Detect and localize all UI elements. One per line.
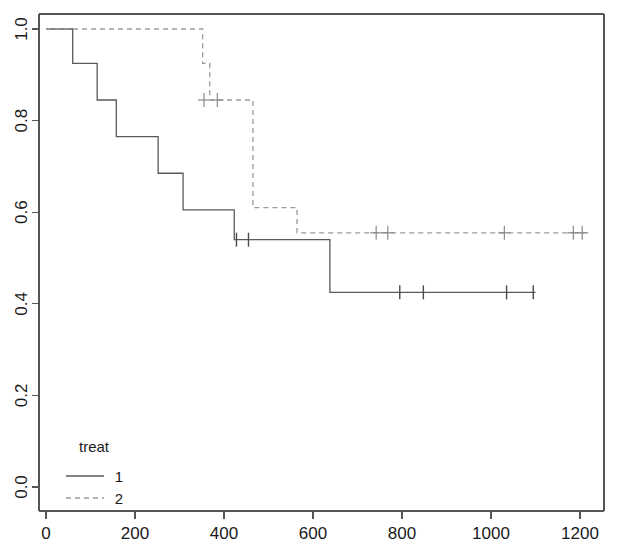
y-tick-label-0.8: 0.8	[12, 109, 31, 133]
survival-plot: 0.00.20.40.60.81.0 020040060080010001200…	[0, 0, 623, 553]
legend-label-2: 2	[115, 490, 123, 507]
legend-label-1: 1	[115, 468, 123, 485]
censor-marks-1	[236, 233, 533, 300]
survival-curve-1	[46, 29, 536, 292]
survival-curve-2	[46, 29, 587, 233]
x-tick-label-1000: 1000	[472, 524, 510, 543]
x-tick-label-600: 600	[299, 524, 327, 543]
x-tick-label-0: 0	[41, 524, 50, 543]
y-tick-label-0.4: 0.4	[12, 292, 31, 316]
x-tick-label-200: 200	[121, 524, 149, 543]
plot-frame	[39, 14, 604, 511]
censor-marks-2	[198, 93, 588, 240]
x-tick-label-800: 800	[388, 524, 416, 543]
series-layer	[46, 29, 588, 299]
x-axis: 020040060080010001200	[41, 511, 599, 543]
y-tick-label-0.2: 0.2	[12, 384, 31, 408]
legend-title: treat	[79, 438, 110, 455]
y-tick-label-0.6: 0.6	[12, 200, 31, 224]
y-axis: 0.00.20.40.60.81.0	[12, 17, 39, 499]
plot-canvas: 0.00.20.40.60.81.0 020040060080010001200…	[0, 0, 623, 553]
x-tick-label-400: 400	[210, 524, 238, 543]
y-tick-label-1.0: 1.0	[12, 17, 31, 41]
plot-border	[39, 14, 604, 511]
x-tick-label-1200: 1200	[561, 524, 599, 543]
y-tick-label-0.0: 0.0	[12, 475, 31, 499]
chart-legend: treat12	[66, 438, 123, 507]
